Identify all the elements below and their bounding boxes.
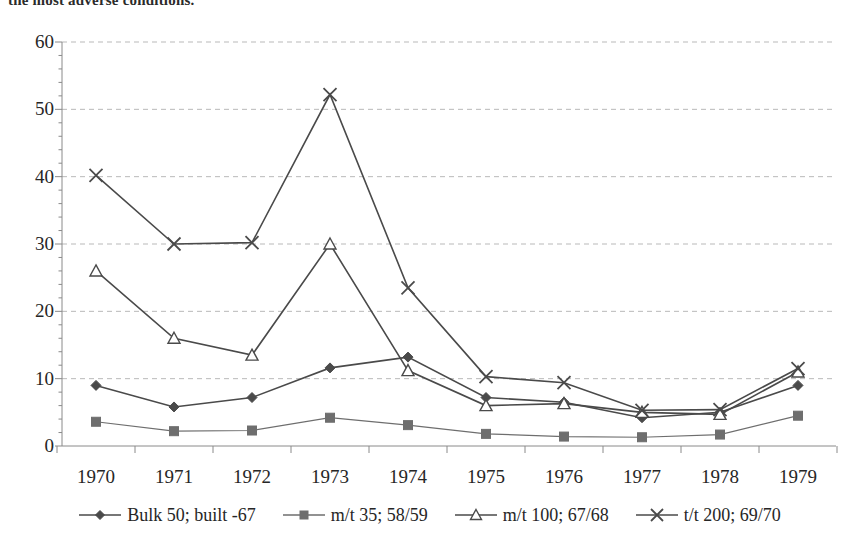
x-axis-tick-label: 1978 (680, 466, 760, 488)
data-point (560, 432, 569, 441)
data-point (248, 426, 257, 435)
data-point (325, 363, 335, 373)
data-point (170, 427, 179, 436)
legend-item-label: m/t 100; 67/68 (503, 505, 609, 525)
x-axis-tick-label: 1971 (134, 466, 214, 488)
data-point (324, 88, 337, 101)
series-triangle (90, 238, 804, 419)
x-axis-tick-label: 1973 (290, 466, 370, 488)
x-axis-tick-label: 1977 (602, 466, 682, 488)
data-point (247, 393, 257, 403)
series-cross-x (90, 88, 805, 417)
series-line (96, 416, 798, 438)
data-point (793, 380, 803, 390)
data-point (482, 429, 491, 438)
legend-item-label: t/t 200; 69/70 (684, 505, 781, 525)
data-point (794, 411, 803, 420)
series-line (96, 244, 798, 414)
data-point (92, 417, 101, 426)
page-top-text-fragment: the most adverse conditions. (8, 0, 194, 9)
cross-x-marker-icon (635, 507, 679, 523)
chart-legend: Bulk 50; built -67m/t 35; 58/59m/t 100; … (0, 500, 859, 530)
data-point (90, 265, 102, 276)
legend-item-label: m/t 35; 58/59 (331, 505, 428, 525)
series-square (92, 411, 803, 442)
legend-item-1[interactable]: Bulk 50; built -67 (78, 505, 256, 525)
series-line (96, 95, 798, 411)
data-point (90, 169, 103, 182)
data-point (326, 413, 335, 422)
x-axis-tick-label: 1972 (212, 466, 292, 488)
legend-item-label: Bulk 50; built -67 (127, 505, 256, 525)
line-chart: 6050403020100 19701971197219731974197519… (0, 14, 859, 454)
chart-page: the most adverse conditions. 60504030201… (0, 0, 859, 535)
data-point (638, 433, 647, 442)
data-point (402, 365, 414, 376)
data-point (403, 352, 413, 362)
x-axis-tick-label: 1974 (368, 466, 448, 488)
square-marker-icon (282, 507, 326, 523)
data-point (91, 380, 101, 390)
legend-item-2[interactable]: m/t 35; 58/59 (282, 505, 428, 525)
data-point (404, 421, 413, 430)
x-axis-tick-label: 1970 (56, 466, 136, 488)
data-point (716, 430, 725, 439)
legend-item-4[interactable]: t/t 200; 69/70 (635, 505, 781, 525)
x-axis-tick-label: 1975 (446, 466, 526, 488)
x-axis-tick-label: 1976 (524, 466, 604, 488)
data-point (402, 281, 415, 294)
legend-item-3[interactable]: m/t 100; 67/68 (454, 505, 609, 525)
chart-canvas (0, 14, 859, 454)
triangle-marker-icon (454, 507, 498, 523)
data-point (169, 402, 179, 412)
x-axis-tick-label: 1979 (758, 466, 838, 488)
x-axis-labels: 1970197119721973197419751976197719781979 (0, 466, 859, 492)
diamond-marker-icon (78, 507, 122, 523)
